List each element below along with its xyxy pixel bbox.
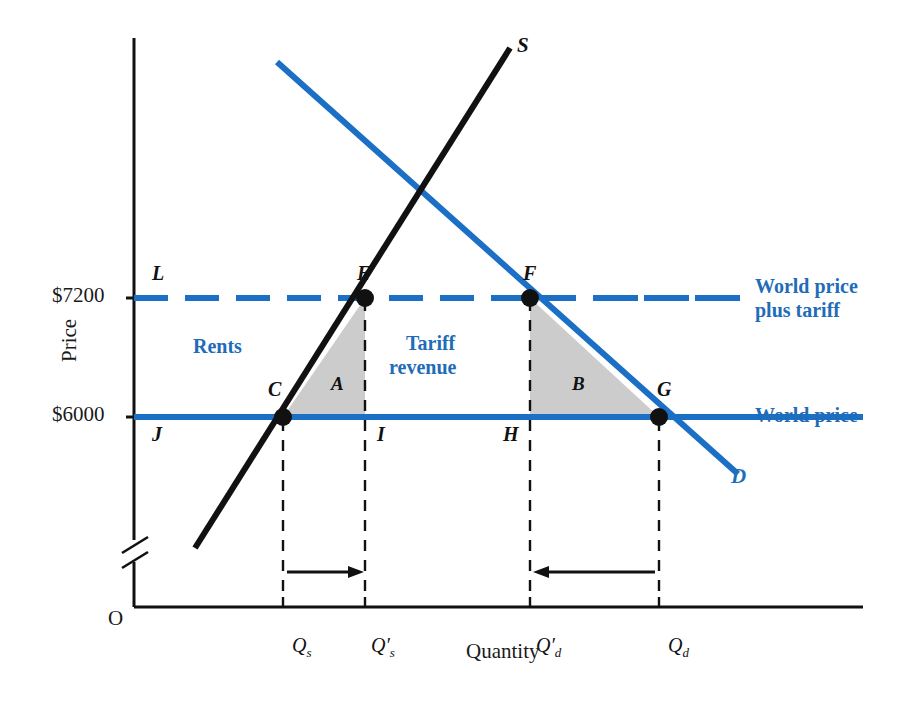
point-label-j: J: [152, 424, 162, 445]
origin-label: O: [108, 607, 123, 629]
x-tick-label-qs-prime: Q′s: [351, 614, 395, 681]
demand-curve-label: D: [731, 465, 746, 487]
x-tick-label-qs-prime-sub: s: [390, 645, 395, 660]
point-label-f: F: [523, 263, 536, 284]
x-tick-label-qs-base: Q: [292, 634, 306, 656]
point-marker-f: [521, 289, 539, 307]
x-tick-label-qs-sub: s: [306, 645, 311, 660]
x-tick-label-qd-base: Q: [668, 634, 682, 656]
y-tick-label-6000: $6000: [52, 403, 105, 425]
area-label-b: B: [572, 374, 585, 394]
region-label-tariff-revenue-line2: revenue: [389, 357, 456, 378]
y-axis-title: Price: [58, 319, 80, 362]
x-tick-label-qd: Qd: [648, 614, 689, 681]
point-label-l: L: [152, 263, 164, 284]
point-marker-g: [650, 408, 668, 426]
region-label-rents: Rents: [193, 336, 242, 357]
point-label-h: H: [503, 424, 519, 445]
x-tick-label-qs: Qs: [272, 614, 312, 681]
legend-label-world-price-plus-tariff-line2: plus tariff: [755, 299, 840, 323]
x-tick-label-qd-prime: Q′d: [516, 614, 561, 681]
shaded-region-a: [283, 298, 365, 417]
arrow-supply-expansion-head: [348, 566, 364, 578]
area-label-a: A: [331, 374, 344, 394]
point-label-c: C: [268, 379, 281, 400]
x-tick-label-qd-prime-base: Q′: [536, 634, 555, 656]
legend-label-world-price: World price: [755, 404, 858, 428]
point-label-i: I: [377, 424, 385, 445]
figure-canvas: Price Quantity O $7200 $6000 S D L E F J…: [0, 0, 904, 702]
x-tick-label-qd-prime-sub: d: [555, 645, 562, 660]
legend-label-world-price-plus-tariff-line1: World price: [755, 275, 858, 299]
shaded-region-b: [530, 298, 659, 417]
arrow-demand-contraction-head: [533, 566, 549, 578]
x-tick-label-qs-prime-base: Q′: [371, 634, 390, 656]
point-label-g: G: [657, 379, 671, 400]
supply-curve-label: S: [517, 34, 529, 56]
point-marker-e: [356, 289, 374, 307]
x-tick-label-qd-sub: d: [682, 645, 689, 660]
point-label-e: E: [357, 263, 370, 284]
y-tick-label-7200: $7200: [52, 284, 105, 306]
region-label-tariff-revenue-line1: Tariff: [406, 333, 455, 354]
point-marker-c: [274, 408, 292, 426]
